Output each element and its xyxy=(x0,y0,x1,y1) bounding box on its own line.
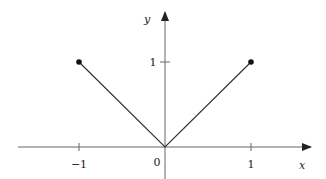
endpoint-left-dot xyxy=(76,59,82,65)
y-axis-label: y xyxy=(143,13,151,26)
tick-label-0: 0 xyxy=(154,156,161,169)
chart: −1 0 1 1 x y xyxy=(0,0,326,179)
endpoint-right-dot xyxy=(248,59,254,65)
tick-label-neg1: −1 xyxy=(71,158,87,171)
tick-label-1: 1 xyxy=(248,158,255,171)
ytick-label-1: 1 xyxy=(150,56,157,69)
x-axis-label: x xyxy=(299,159,306,172)
